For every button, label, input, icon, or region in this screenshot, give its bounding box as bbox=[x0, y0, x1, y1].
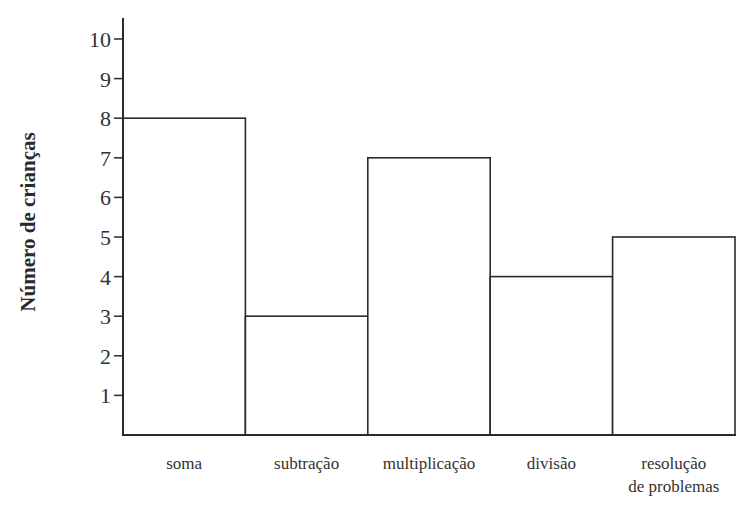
y-tick-label: 10 bbox=[89, 27, 111, 52]
x-category-label: subtração bbox=[274, 454, 339, 473]
y-tick-label: 7 bbox=[100, 146, 111, 171]
bar-soma bbox=[123, 118, 245, 435]
y-ticks: 12345678910 bbox=[89, 27, 123, 408]
x-category-label: soma bbox=[166, 454, 202, 473]
bar-resolução-de-problemas bbox=[613, 237, 735, 435]
x-category-label: de problemas bbox=[628, 477, 719, 496]
y-tick-label: 3 bbox=[100, 304, 111, 329]
y-tick-label: 4 bbox=[100, 265, 111, 290]
y-axis-title: Número de crianças bbox=[16, 132, 40, 311]
bar-multiplicação bbox=[368, 158, 490, 435]
bar-subtração bbox=[245, 316, 367, 435]
y-tick-label: 1 bbox=[100, 383, 111, 408]
x-category-labels: somasubtraçãomultiplicaçãodivisãoresoluç… bbox=[166, 454, 719, 496]
bars-group bbox=[123, 118, 735, 435]
y-tick-label: 9 bbox=[100, 67, 111, 92]
bar-divisão bbox=[490, 277, 612, 435]
y-tick-label: 2 bbox=[100, 344, 111, 369]
x-category-label: divisão bbox=[527, 454, 576, 473]
x-category-label: multiplicação bbox=[383, 454, 476, 473]
bar-chart: 12345678910 somasubtraçãomultiplicaçãodi… bbox=[0, 0, 754, 514]
y-tick-label: 6 bbox=[100, 185, 111, 210]
y-tick-label: 5 bbox=[100, 225, 111, 250]
y-tick-label: 8 bbox=[100, 106, 111, 131]
x-category-label: resolução bbox=[641, 454, 706, 473]
